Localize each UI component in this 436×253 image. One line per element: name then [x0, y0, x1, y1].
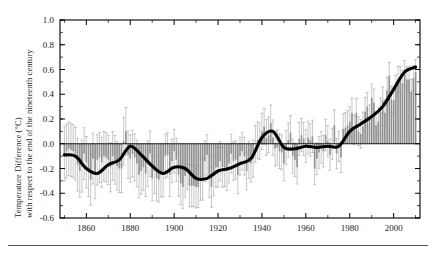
caption-divider-rule	[8, 245, 428, 246]
plot-area: 1.00.80.60.40.20.0-0.2-0.4-0.61860188019…	[0, 0, 436, 253]
smoothed-trend-path	[64, 67, 415, 179]
x-tick-label: 1960	[297, 223, 316, 233]
y-axis-label: Temperature Difference (°C) with respect…	[0, 18, 34, 220]
axis-tick-labels: 1.00.80.60.40.20.0-0.2-0.4-0.61860188019…	[40, 15, 403, 233]
y-axis-label-line2: with respect to the end of the nineteent…	[24, 49, 34, 218]
y-tick-label: 0.8	[43, 40, 55, 50]
x-tick-label: 1920	[209, 223, 228, 233]
x-tick-label: 1900	[165, 223, 184, 233]
y-tick-label: 0.2	[43, 114, 54, 124]
x-tick-label: 1980	[341, 223, 360, 233]
y-tick-label: -0.6	[40, 213, 55, 223]
x-tick-label: 2000	[385, 223, 404, 233]
y-tick-label: -0.2	[40, 164, 54, 174]
x-tick-label: 1940	[253, 223, 272, 233]
x-tick-label: 1860	[77, 223, 96, 233]
y-tick-label: -0.4	[40, 188, 55, 198]
y-tick-label: 0.0	[43, 139, 55, 149]
smoothed-trend-line	[64, 67, 415, 179]
bars-and-error-bars	[60, 60, 420, 209]
x-tick-label: 1880	[121, 223, 140, 233]
y-tick-label: 1.0	[43, 15, 55, 25]
y-axis-label-line1: Temperature Difference (°C)	[13, 117, 23, 218]
temperature-anomaly-figure: Temperature Difference (°C) with respect…	[0, 0, 436, 253]
y-tick-label: 0.4	[43, 89, 55, 99]
y-tick-label: 0.6	[43, 65, 55, 75]
